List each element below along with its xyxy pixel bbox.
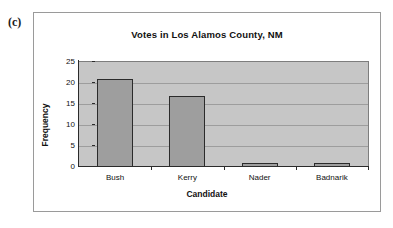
y-tick-mark xyxy=(92,145,95,146)
x-tick-mark xyxy=(368,166,369,170)
bar xyxy=(97,79,133,167)
x-tick-mark xyxy=(296,166,297,170)
panel-label: (c) xyxy=(8,16,21,28)
x-axis-title: Candidate xyxy=(34,189,380,199)
figure-root: (c) Votes in Los Alamos County, NM Frequ… xyxy=(0,0,393,228)
y-tick-mark xyxy=(92,61,95,62)
bar xyxy=(169,96,205,167)
x-tick-label: Nader xyxy=(249,173,271,182)
y-tick-label: 5 xyxy=(53,141,75,150)
x-tick-mark xyxy=(224,166,225,170)
y-tick-mark xyxy=(92,103,95,104)
x-tick-label: Bush xyxy=(106,173,124,182)
y-tick-label: 20 xyxy=(53,78,75,87)
y-tick-mark xyxy=(92,124,95,125)
y-tick-mark xyxy=(92,82,95,83)
y-tick-label: 25 xyxy=(53,57,75,66)
x-tick-mark xyxy=(151,166,152,170)
y-axis-title: Frequency xyxy=(40,104,50,147)
plot-area xyxy=(79,61,369,167)
chart-title: Votes in Los Alamos County, NM xyxy=(34,29,380,40)
x-tick-label: Kerry xyxy=(178,173,197,182)
y-tick-label: 10 xyxy=(53,120,75,129)
y-tick-mark xyxy=(92,166,95,167)
x-tick-label: Badnarik xyxy=(316,173,348,182)
chart-frame: Votes in Los Alamos County, NM Frequency… xyxy=(33,12,381,212)
y-axis-line xyxy=(78,60,79,167)
y-tick-label: 15 xyxy=(53,99,75,108)
y-tick-label: 0 xyxy=(53,162,75,171)
